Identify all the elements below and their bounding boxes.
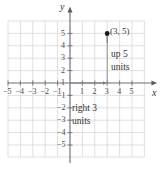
x-tick-label-3: 3 [105,88,109,96]
y-axis-label: y [60,2,64,12]
y-tick-label-1: 1 [61,79,65,87]
x-tick-label-neg2: −2 [41,88,50,96]
y-tick-label-neg1: −1 [57,92,66,100]
y-tick-label-neg3: −3 [57,116,66,124]
annotation-right-line1: right 3 [72,104,97,114]
y-tick-label-3: 3 [61,54,65,62]
y-tick-label-neg4: −4 [57,129,66,137]
graph-canvas [0,0,161,169]
point-coordinate-label: (3, 5) [110,27,130,36]
y-tick-label-neg2: −2 [57,104,66,112]
annotation-up-line2: units [111,63,129,73]
plotted-point-3-5 [105,31,110,36]
y-tick-label-2: 2 [61,67,65,75]
x-tick-label-2: 2 [92,88,96,96]
x-tick-label-neg4: −4 [16,88,25,96]
x-axis-label: x [152,88,156,98]
y-tick-label-5: 5 [61,30,65,38]
x-tick-label-neg3: −3 [28,88,37,96]
annotation-right-line2: units [72,117,90,127]
x-tick-label-5: 5 [130,88,134,96]
x-tick-label-neg5: −5 [3,88,12,96]
coordinate-plane-figure: −5 −4 −3 −2 −1 1 2 3 4 5 5 4 3 2 1 −1 −2… [0,0,161,169]
x-tick-label-4: 4 [117,88,121,96]
annotation-up-line1: up 5 [111,50,128,60]
y-tick-label-neg5: −5 [57,141,66,149]
y-tick-label-4: 4 [61,42,65,50]
x-tick-label-1: 1 [80,88,84,96]
